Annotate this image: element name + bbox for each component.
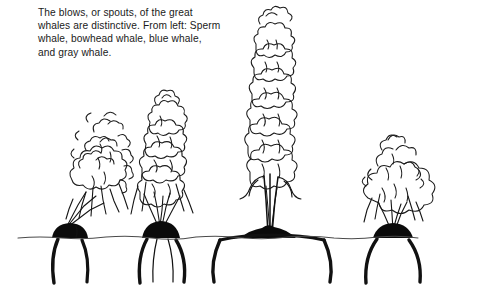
bowhead-whale-head xyxy=(142,221,180,238)
gray-whale-blow xyxy=(362,135,435,230)
sperm-whale-body xyxy=(53,239,58,283)
whale-scene-illustration xyxy=(0,0,485,296)
bowhead-whale-body xyxy=(139,239,147,283)
sperm-whale-blow xyxy=(66,112,133,228)
blue-whale-body xyxy=(213,240,220,282)
gray-whale-body xyxy=(366,239,377,283)
gray-whale-group xyxy=(362,135,435,283)
sperm-whale-group xyxy=(52,112,133,283)
sperm-whale-head xyxy=(52,223,88,238)
bowhead-whale-blow xyxy=(131,90,193,226)
blue-whale-blow xyxy=(240,6,301,234)
bowhead-whale-group xyxy=(131,90,193,283)
whale-blows-figure: The blows, or spouts, of the great whale… xyxy=(0,0,485,296)
blue-whale-group xyxy=(213,6,331,282)
